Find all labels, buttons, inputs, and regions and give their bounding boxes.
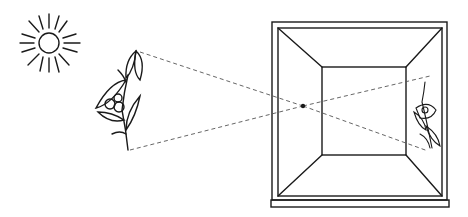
pinhole-diagram: [0, 0, 468, 217]
sun-icon: [20, 14, 80, 72]
camera-box: [271, 22, 449, 207]
inverted-image: [414, 82, 440, 148]
plant-object: [96, 51, 142, 150]
pinhole: [301, 104, 305, 108]
